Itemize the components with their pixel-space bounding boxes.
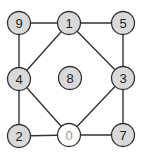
node-label: 8 xyxy=(66,71,73,86)
node-label: 3 xyxy=(119,71,126,86)
node-0: 0 xyxy=(58,124,81,147)
node-label: 4 xyxy=(15,72,22,87)
node-2: 2 xyxy=(8,125,31,148)
node-4: 4 xyxy=(8,68,31,91)
node-8: 8 xyxy=(59,67,82,90)
node-3: 3 xyxy=(112,67,135,90)
graph-diagram: 915483207 xyxy=(0,0,141,160)
node-label: 2 xyxy=(15,129,22,144)
graph-canvas: 915483207 xyxy=(0,0,141,160)
node-9: 9 xyxy=(8,12,31,35)
node-label: 9 xyxy=(15,16,22,31)
node-1: 1 xyxy=(58,12,81,35)
node-label: 5 xyxy=(119,16,126,31)
node-5: 5 xyxy=(112,12,135,35)
node-7: 7 xyxy=(112,124,135,147)
nodes-layer: 915483207 xyxy=(8,12,135,148)
node-label: 1 xyxy=(65,16,72,31)
node-label: 0 xyxy=(65,128,72,143)
node-label: 7 xyxy=(119,128,126,143)
